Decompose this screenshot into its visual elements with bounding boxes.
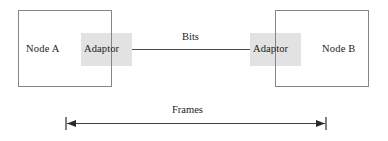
link-layer-diagram: Node A Node B Adaptor Adaptor Bits Frame… xyxy=(0,0,388,141)
node-a-label: Node A xyxy=(26,44,60,55)
frames-dimension-arrow xyxy=(60,114,332,134)
adaptor-left-label: Adaptor xyxy=(84,44,119,55)
node-b-label: Node B xyxy=(322,44,356,55)
frames-arrowhead-left-icon xyxy=(67,120,76,127)
frames-arrowhead-right-icon xyxy=(316,120,325,127)
bits-connection-line xyxy=(120,49,268,50)
adaptor-right-label: Adaptor xyxy=(253,44,288,55)
bits-label: Bits xyxy=(182,32,199,43)
frames-label: Frames xyxy=(172,105,203,116)
